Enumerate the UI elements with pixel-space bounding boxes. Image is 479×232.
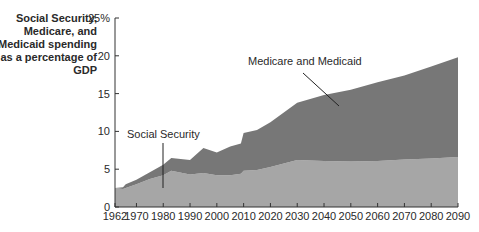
x-tick-label: 2070 (392, 210, 416, 222)
y-tick-label: 20 (98, 50, 110, 62)
x-tick-label: 2060 (365, 210, 389, 222)
annotation-medicare-medicaid: Medicare and Medicaid (248, 55, 362, 67)
x-tick-label: 1970 (124, 210, 148, 222)
x-tick-label: 2000 (205, 210, 229, 222)
y-tick-label: 5 (104, 163, 110, 175)
x-tick-label: 2010 (231, 210, 255, 222)
x-tick-label: 2080 (419, 210, 443, 222)
x-tick-label: 2040 (312, 210, 336, 222)
y-tick-label: 25% (88, 12, 110, 24)
x-tick-label: 2090 (446, 210, 470, 222)
x-tick-label: 1980 (151, 210, 175, 222)
annotation-social-security: Social Security (127, 128, 200, 140)
x-tick-label: 1990 (178, 210, 202, 222)
stacked-area-chart: 0510152025%19621970198019902000201020202… (0, 0, 479, 232)
x-tick-label: 2020 (258, 210, 282, 222)
y-tick-label: 10 (98, 125, 110, 137)
x-tick-label: 2030 (285, 210, 309, 222)
y-tick-label: 15 (98, 88, 110, 100)
x-tick-label: 2050 (339, 210, 363, 222)
